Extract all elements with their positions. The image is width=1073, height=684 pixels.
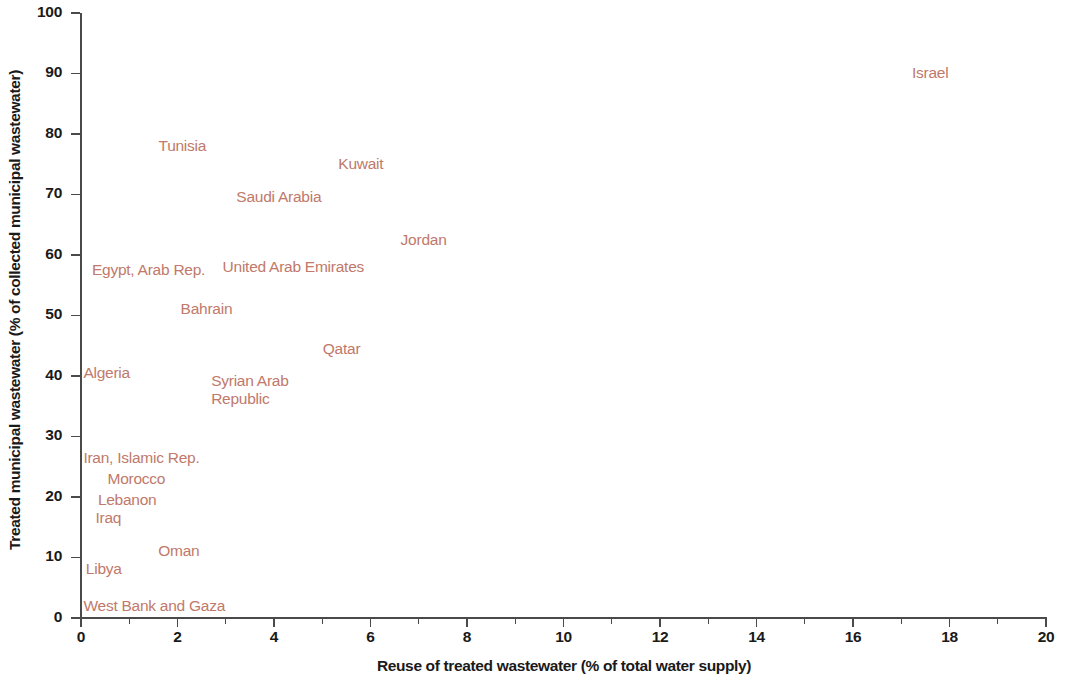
y-tick [71, 133, 80, 135]
y-tick [71, 557, 80, 559]
y-tick-label: 40 [20, 366, 62, 384]
x-tick-label: 12 [638, 628, 682, 646]
data-point-label: Libya [86, 560, 122, 578]
data-point-label: Saudi Arabia [236, 188, 321, 206]
data-point-label: West Bank and Gaza [83, 597, 225, 615]
y-tick-label: 30 [20, 426, 62, 444]
y-tick [71, 315, 80, 317]
x-tick [273, 618, 275, 627]
data-point-label: Jordan [401, 231, 447, 249]
data-point-label: Bahrain [181, 300, 233, 318]
x-minor-tick [322, 618, 323, 624]
x-tick [563, 618, 565, 627]
data-point-label: Lebanon [98, 491, 157, 509]
x-minor-tick [901, 618, 902, 624]
data-point-label: Oman [158, 542, 199, 560]
data-point-label: Iran, Islamic Rep. [83, 448, 199, 466]
y-axis-title: Treated municipal wastewater (% of colle… [4, 0, 26, 620]
x-tick [1045, 618, 1047, 627]
y-tick-label: 20 [20, 487, 62, 505]
x-minor-tick [225, 618, 226, 624]
x-tick-label: 16 [831, 628, 875, 646]
y-tick [71, 617, 80, 619]
x-tick-label: 18 [928, 628, 972, 646]
x-tick [852, 618, 854, 627]
y-tick-label: 70 [20, 184, 62, 202]
y-tick [71, 194, 80, 196]
data-point-label: Egypt, Arab Rep. [92, 261, 205, 279]
x-tick [80, 618, 82, 627]
x-tick-label: 4 [252, 628, 296, 646]
y-tick [71, 73, 80, 75]
x-tick [659, 618, 661, 627]
x-minor-tick [418, 618, 419, 624]
data-point-label: Kuwait [338, 155, 383, 173]
y-tick-label: 50 [20, 305, 62, 323]
y-tick [71, 496, 80, 498]
y-tick-label: 60 [20, 245, 62, 263]
x-tick [177, 618, 179, 627]
data-point-label: Qatar [323, 340, 361, 358]
x-tick [370, 618, 372, 627]
y-axis-line [80, 13, 82, 619]
x-tick-label: 8 [445, 628, 489, 646]
data-point-label: Syrian Arab Republic [211, 372, 288, 409]
x-tick [756, 618, 758, 627]
y-tick [71, 375, 80, 377]
data-point-label: Iraq [95, 509, 121, 527]
x-minor-tick [997, 618, 998, 624]
data-point-label: Tunisia [158, 137, 206, 155]
y-tick-label: 90 [20, 63, 62, 81]
y-tick-label: 80 [20, 124, 62, 142]
x-tick [949, 618, 951, 627]
y-tick-label: 10 [20, 547, 62, 565]
x-tick-label: 6 [349, 628, 393, 646]
x-minor-tick [611, 618, 612, 624]
x-tick-label: 14 [735, 628, 779, 646]
x-tick-label: 10 [542, 628, 586, 646]
y-tick [71, 12, 80, 14]
x-minor-tick [515, 618, 516, 624]
x-tick-label: 0 [59, 628, 103, 646]
y-tick-label: 100 [20, 3, 62, 21]
y-tick-label: 0 [20, 608, 62, 626]
x-minor-tick [804, 618, 805, 624]
data-point-label: Morocco [108, 470, 166, 488]
x-minor-tick [129, 618, 130, 624]
data-point-label: United Arab Emirates [223, 258, 364, 276]
x-tick-label: 2 [156, 628, 200, 646]
x-tick-label: 20 [1024, 628, 1068, 646]
scatter-chart-figure: 0102030405060708090100 02468101214161820… [0, 0, 1073, 684]
data-point-label: Israel [912, 64, 948, 82]
x-axis-title: Reuse of treated wastewater (% of total … [81, 657, 1047, 675]
y-tick [71, 254, 80, 256]
x-tick [466, 618, 468, 627]
data-point-label: Algeria [83, 364, 130, 382]
x-minor-tick [708, 618, 709, 624]
y-tick [71, 436, 80, 438]
